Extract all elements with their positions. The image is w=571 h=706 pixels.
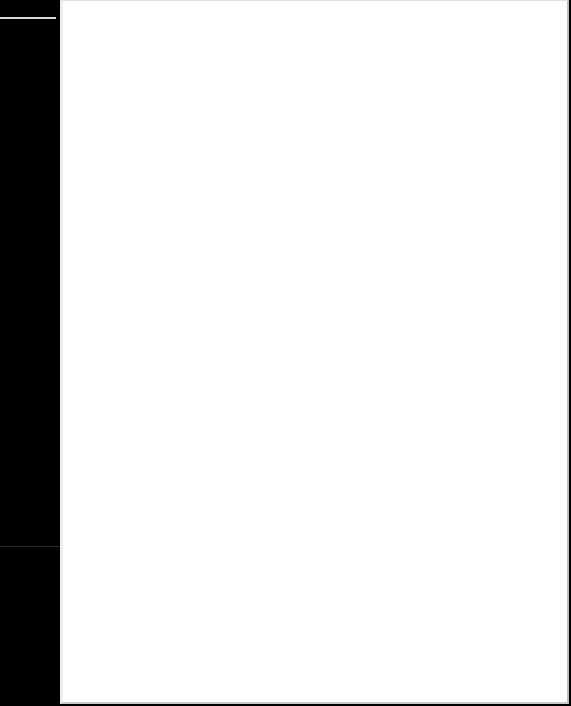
scan-left-margin	[0, 0, 60, 706]
margin-divider	[0, 546, 60, 547]
blank-page	[60, 0, 569, 704]
page-edge-line	[0, 17, 56, 19]
